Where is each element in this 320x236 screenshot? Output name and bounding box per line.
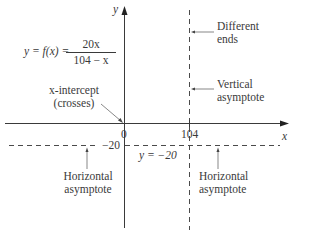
y-axis-label: y bbox=[113, 3, 118, 16]
y-tick-label-neg20: −20 bbox=[102, 139, 120, 152]
h-asymptote-equation: y = −20 bbox=[139, 149, 177, 162]
arrowhead-icon bbox=[191, 88, 195, 91]
arrowhead-icon bbox=[86, 148, 89, 153]
function-denominator: 104 − x bbox=[66, 54, 116, 67]
x-tick-label-104: 104 bbox=[181, 128, 198, 141]
annotation-vertical-asymptote: Vertical asymptote bbox=[217, 78, 264, 104]
x-axis-arrow-icon bbox=[280, 121, 289, 127]
annotation-horizontal-asymptote-right: Horizontal asymptote bbox=[199, 170, 248, 196]
annotation-different-ends: Different ends bbox=[217, 20, 259, 46]
arrowhead-icon bbox=[191, 31, 195, 34]
function-numerator: 20x bbox=[66, 38, 116, 51]
y-axis-arrow-icon bbox=[122, 6, 128, 15]
annotation-x-intercept: x-intercept (crosses) bbox=[48, 84, 100, 110]
origin-label: 0 bbox=[121, 128, 127, 141]
x-axis-label: x bbox=[282, 130, 287, 143]
function-lhs: y = f(x) = bbox=[24, 45, 69, 58]
pointer-x-intercept bbox=[101, 104, 121, 121]
arrowhead-icon bbox=[217, 148, 220, 153]
function-fraction: 20x 104 − x bbox=[66, 38, 116, 67]
fraction-bar bbox=[66, 52, 116, 53]
annotation-horizontal-asymptote-left: Horizontal asymptote bbox=[62, 170, 114, 196]
